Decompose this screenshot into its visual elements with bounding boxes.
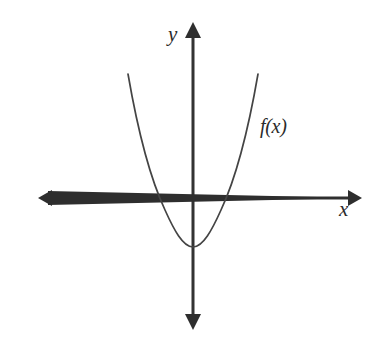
y-axis-top-arrowhead-icon bbox=[185, 22, 201, 38]
coordinate-plane-svg bbox=[0, 0, 384, 356]
x-axis-left-arrowhead-icon bbox=[38, 190, 52, 206]
graph-figure: y x f(x) bbox=[0, 0, 384, 356]
x-axis-right-arrowhead-icon bbox=[348, 190, 362, 206]
function-label-fx: f(x) bbox=[260, 116, 287, 136]
x-axis-label: x bbox=[339, 199, 348, 220]
y-axis-bottom-arrowhead-icon bbox=[185, 314, 201, 330]
x-axis-left-arrow-icon bbox=[48, 191, 362, 205]
y-axis-label: y bbox=[168, 24, 177, 45]
